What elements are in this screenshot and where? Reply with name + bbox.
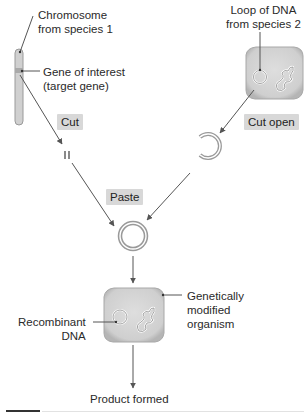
gene-fragment-icon xyxy=(64,151,70,159)
loop-label-line2: from species 2 xyxy=(226,17,301,31)
step-cut-tag: Cut xyxy=(57,114,83,130)
loop-label-line1: Loop of DNA xyxy=(226,3,301,17)
step-cut-open-tag: Cut open xyxy=(244,114,299,130)
gene-label-line1: Gene of interest xyxy=(43,65,125,79)
chromosome-icon xyxy=(15,49,23,125)
step-paste-tag: Paste xyxy=(106,189,143,205)
chromosome-label-line1: Chromosome xyxy=(38,8,113,22)
footer-rule xyxy=(6,410,40,412)
gmo-label-line3: organism xyxy=(187,317,244,331)
loop-of-dna-label: Loop of DNA from species 2 xyxy=(226,3,301,31)
recombinant-label-line2: DNA xyxy=(18,329,86,343)
gmo-cell-icon xyxy=(104,288,164,342)
gene-label-line2: (target gene) xyxy=(43,79,125,93)
footer-rule-light xyxy=(42,411,304,412)
recombinant-plasmid-icon xyxy=(120,223,146,249)
gmo-label-line1: Genetically xyxy=(187,289,244,303)
gmo-label-line2: modified xyxy=(187,303,244,317)
gmo-label: Genetically modified organism xyxy=(187,289,244,331)
gene-of-interest-label: Gene of interest (target gene) xyxy=(43,65,125,93)
diagram-graphics xyxy=(0,0,308,414)
chromosome-label: Chromosome from species 1 xyxy=(38,8,113,36)
chromosome-label-line2: from species 1 xyxy=(38,22,113,36)
product-formed-label: Product formed xyxy=(90,392,169,406)
recombinant-dna-label: Recombinant DNA xyxy=(18,315,86,343)
recombinant-label-line1: Recombinant xyxy=(18,315,86,329)
open-plasmid-icon xyxy=(200,134,220,158)
bacterium-species-2-icon xyxy=(246,47,303,99)
